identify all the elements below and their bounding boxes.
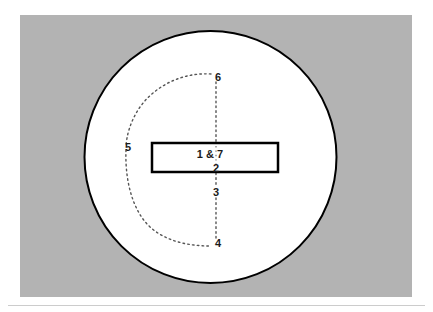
diagram-canvas: 1 & 7 2 3 4 5 6	[0, 0, 433, 312]
label-4: 4	[215, 237, 222, 249]
label-2: 2	[213, 162, 219, 174]
label-1-and-7: 1 & 7	[197, 148, 223, 160]
label-5: 5	[125, 141, 131, 153]
figure-root: 1 & 7 2 3 4 5 6	[0, 0, 433, 312]
label-6: 6	[215, 71, 221, 83]
label-3: 3	[213, 186, 219, 198]
